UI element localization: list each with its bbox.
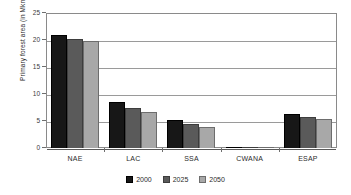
- y-axis-tick-label: 25: [33, 8, 40, 17]
- bar: [300, 117, 316, 148]
- bar-group-bars: [46, 13, 104, 148]
- bar: [226, 147, 242, 148]
- x-axis-tick-mark: [104, 148, 105, 152]
- legend-swatch-icon: [126, 176, 133, 183]
- legend-item[interactable]: 2025: [163, 176, 189, 183]
- x-axis-label: NAE: [46, 155, 104, 162]
- bar: [141, 112, 157, 148]
- bar: [167, 120, 183, 148]
- y-axis-title: Primary forest area (in Mkm2): [18, 0, 26, 107]
- y-axis-tick-label: 5: [36, 116, 40, 125]
- bar: [67, 39, 83, 148]
- legend-label: 2025: [173, 176, 189, 183]
- bar: [83, 41, 99, 148]
- bar: [51, 35, 67, 148]
- legend-swatch-icon: [163, 176, 170, 183]
- bar: [284, 114, 300, 148]
- x-axis-tick-mark: [162, 148, 163, 152]
- y-axis-title-text: Primary forest area (in Mkm: [19, 0, 26, 81]
- x-axis-tick-mark: [279, 148, 280, 152]
- y-axis-tick-label: 10: [33, 89, 40, 98]
- bar-group: [279, 13, 337, 148]
- bar-group-bars: [221, 13, 279, 148]
- bar: [109, 102, 125, 148]
- bar: [258, 147, 274, 148]
- bar: [199, 127, 215, 148]
- bar: [125, 108, 141, 148]
- bar: [183, 124, 199, 148]
- bar-group-bars: [162, 13, 220, 148]
- y-axis-tick-label: 15: [33, 62, 40, 71]
- x-axis-label: CWANA: [221, 155, 279, 162]
- bar-group: [46, 13, 104, 148]
- legend-item[interactable]: 2000: [126, 176, 152, 183]
- x-axis-label: SSA: [162, 155, 220, 162]
- x-axis-label: LAC: [104, 155, 162, 162]
- legend-label: 2000: [136, 176, 152, 183]
- gridline: [47, 149, 336, 150]
- bar-group: [104, 13, 162, 148]
- bar: [316, 119, 332, 148]
- bar-group: [221, 13, 279, 148]
- chart-legend: 200020252050: [0, 176, 351, 183]
- bar-chart: Primary forest area (in Mkm2) 2520151050…: [0, 0, 351, 195]
- legend-swatch-icon: [199, 176, 206, 183]
- y-axis-tick-label: 0: [36, 143, 40, 152]
- legend-item[interactable]: 2050: [199, 176, 225, 183]
- bar: [242, 147, 258, 148]
- bar-group-bars: [279, 13, 337, 148]
- legend-label: 2050: [209, 176, 225, 183]
- bar-group-bars: [104, 13, 162, 148]
- x-axis-label: ESAP: [279, 155, 337, 162]
- bar-group: [162, 13, 220, 148]
- x-axis-tick-mark: [221, 148, 222, 152]
- y-axis-tick-label: 20: [33, 35, 40, 44]
